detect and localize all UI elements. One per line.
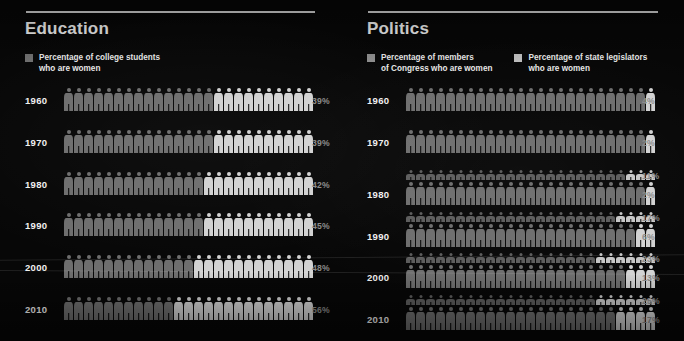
- person-figure-icon: [274, 297, 283, 320]
- person-figure-icon: [164, 130, 173, 153]
- person-figure-icon: [234, 213, 243, 236]
- person-figure-icon: [526, 170, 535, 180]
- person-figure-icon: [104, 297, 113, 320]
- person-figure-icon: [596, 130, 605, 153]
- person-figure-icon: [516, 212, 525, 222]
- person-figure-icon: [426, 224, 435, 247]
- person-figure-icon: [436, 212, 445, 222]
- person-figure-icon: [466, 265, 475, 288]
- person-figure-icon: [616, 295, 625, 305]
- person-figure-icon: [586, 170, 595, 180]
- person-figure-icon: [64, 297, 73, 320]
- row-percent-label: 45%: [312, 221, 330, 231]
- person-figure-icon: [436, 224, 445, 247]
- person-figure-icon: [586, 182, 595, 205]
- person-figure-icon: [204, 255, 213, 278]
- person-figure-icon: [436, 295, 445, 305]
- person-figure-icon: [94, 130, 103, 153]
- person-figure-icon: [436, 253, 445, 263]
- row-year-label: 1970: [25, 137, 47, 148]
- person-figure-icon: [616, 130, 625, 153]
- person-figure-icon: [586, 130, 595, 153]
- person-figure-icon: [84, 297, 93, 320]
- person-figure-icon: [294, 255, 303, 278]
- person-figure-icon: [496, 224, 505, 247]
- person-figure-icon: [546, 212, 555, 222]
- person-figure-icon: [416, 265, 425, 288]
- person-figure-icon: [284, 297, 293, 320]
- person-figure-icon: [466, 170, 475, 180]
- person-figure-icon: [476, 253, 485, 263]
- person-figure-icon: [506, 212, 515, 222]
- person-figure-icon: [456, 253, 465, 263]
- person-figure-icon: [416, 182, 425, 205]
- person-figure-icon: [84, 213, 93, 236]
- person-figure-icon: [84, 255, 93, 278]
- person-figure-icon: [556, 307, 565, 330]
- person-figure-icon: [446, 182, 455, 205]
- person-figure-icon: [194, 255, 203, 278]
- person-figure-icon: [264, 255, 273, 278]
- person-figure-icon: [576, 130, 585, 153]
- person-figure-icon: [74, 255, 83, 278]
- person-figure-icon: [566, 295, 575, 305]
- person-figure-icon: [74, 297, 83, 320]
- person-figure-icon: [224, 88, 233, 111]
- person-figure-icon: [124, 130, 133, 153]
- person-figure-icon: [626, 130, 635, 153]
- person-figure-icon: [154, 172, 163, 195]
- person-figure-icon: [114, 130, 123, 153]
- row-percent-label: 39%: [312, 138, 330, 148]
- person-figure-icon: [496, 212, 505, 222]
- person-figure-icon: [556, 130, 565, 153]
- person-figure-icon: [466, 88, 475, 111]
- person-figure-icon: [104, 213, 113, 236]
- person-figure-icon: [626, 307, 635, 330]
- person-figure-icon: [526, 212, 535, 222]
- person-figure-icon: [516, 88, 525, 111]
- person-figure-icon: [94, 88, 103, 111]
- person-figure-icon: [254, 130, 263, 153]
- row-year-label: 1960: [25, 95, 47, 106]
- person-figure-icon: [576, 170, 585, 180]
- person-figure-icon: [234, 130, 243, 153]
- person-figure-icon: [496, 88, 505, 111]
- person-figure-icon: [134, 172, 143, 195]
- person-figure-icon: [184, 130, 193, 153]
- row-year-label: 1970: [367, 137, 389, 148]
- pictogram-figure-row: [406, 170, 655, 180]
- person-figure-icon: [426, 265, 435, 288]
- person-figure-icon: [556, 224, 565, 247]
- person-figure-icon: [596, 224, 605, 247]
- person-figure-icon: [566, 88, 575, 111]
- person-figure-icon: [234, 88, 243, 111]
- person-figure-icon: [506, 224, 515, 247]
- person-figure-icon: [154, 213, 163, 236]
- person-figure-icon: [546, 182, 555, 205]
- person-figure-icon: [616, 170, 625, 180]
- person-figure-icon: [596, 182, 605, 205]
- person-figure-icon: [214, 297, 223, 320]
- person-figure-icon: [426, 212, 435, 222]
- person-figure-icon: [526, 295, 535, 305]
- person-figure-icon: [426, 295, 435, 305]
- person-figure-icon: [576, 253, 585, 263]
- person-figure-icon: [204, 172, 213, 195]
- person-figure-icon: [74, 172, 83, 195]
- person-figure-icon: [446, 253, 455, 263]
- row-year-label: 2010: [25, 304, 47, 315]
- person-figure-icon: [556, 88, 565, 111]
- person-figure-icon: [234, 297, 243, 320]
- person-figure-icon: [436, 170, 445, 180]
- person-figure-icon: [586, 224, 595, 247]
- person-figure-icon: [506, 182, 515, 205]
- person-figure-icon: [406, 212, 415, 222]
- person-figure-icon: [516, 295, 525, 305]
- person-figure-icon: [426, 307, 435, 330]
- person-figure-icon: [264, 213, 273, 236]
- person-figure-icon: [254, 88, 263, 111]
- person-figure-icon: [64, 172, 73, 195]
- person-figure-icon: [496, 253, 505, 263]
- person-figure-icon: [274, 130, 283, 153]
- person-figure-icon: [556, 182, 565, 205]
